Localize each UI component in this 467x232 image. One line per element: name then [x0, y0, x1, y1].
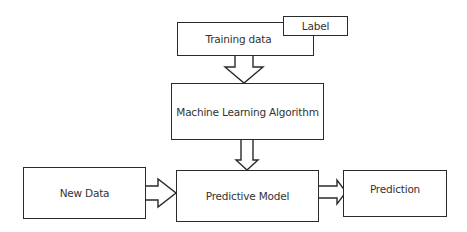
- new-data-box: New Data: [23, 167, 146, 219]
- prediction-label: Prediction: [370, 183, 420, 195]
- training-data-label: Training data: [206, 33, 272, 45]
- prediction-box: Prediction: [343, 170, 447, 217]
- new-data-label: New Data: [60, 187, 110, 199]
- predictive-model-label: Predictive Model: [206, 190, 289, 202]
- label-box-text: Label: [302, 20, 329, 32]
- ml-algorithm-box: Machine Learning Algorithm: [171, 83, 324, 140]
- ml-algorithm-label: Machine Learning Algorithm: [176, 106, 318, 118]
- label-box: Label: [283, 16, 348, 36]
- arrow-training-to-algorithm: [225, 55, 263, 83]
- predictive-model-box: Predictive Model: [176, 170, 319, 222]
